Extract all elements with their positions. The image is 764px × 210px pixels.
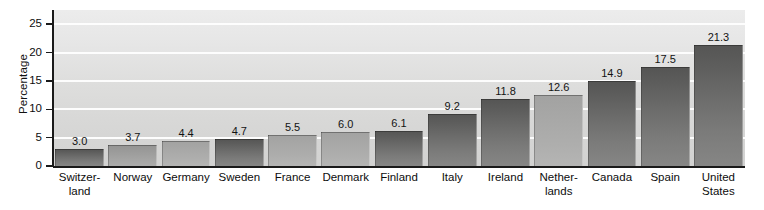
category-label: Ireland <box>475 171 536 185</box>
bar-edge-t <box>694 45 743 46</box>
bar-edge-l <box>215 139 216 166</box>
bar-edge-t <box>55 149 104 150</box>
bar-edge-l <box>55 149 56 166</box>
bar-edge-r <box>156 145 157 166</box>
bar-edge-t <box>321 132 370 133</box>
category-label-line: Ireland <box>475 171 536 185</box>
bar-edge-t <box>268 135 317 136</box>
bar-slot <box>321 10 370 166</box>
bar-chart: Percentage 0510152025 3.03.74.44.75.56.0… <box>0 0 764 210</box>
bar-edge-r <box>582 95 583 166</box>
bar[interactable] <box>268 135 317 166</box>
category-label: Canada <box>581 171 642 185</box>
bar-edge-r <box>263 139 264 166</box>
bar-edge-r <box>742 45 743 166</box>
category-label: Switzer-land <box>49 171 110 198</box>
category-label: France <box>262 171 323 185</box>
bar-edge-r <box>529 99 530 166</box>
y-tick-label-15: 15 <box>16 74 42 86</box>
bar-slot <box>428 10 477 166</box>
x-axis-line <box>53 166 745 168</box>
bar-edge-l <box>268 135 269 166</box>
category-label-line: Italy <box>422 171 483 185</box>
bar[interactable] <box>162 141 211 166</box>
category-label-line: States <box>688 185 749 199</box>
bar-value-label: 6.1 <box>372 117 425 129</box>
bar-edge-r <box>369 132 370 166</box>
bar-edge-r <box>103 149 104 166</box>
bar-edge-l <box>481 99 482 166</box>
bar[interactable] <box>108 145 157 166</box>
bar[interactable] <box>641 67 690 166</box>
bar-value-label: 9.2 <box>426 100 479 112</box>
category-label: Norway <box>102 171 163 185</box>
bar-edge-l <box>534 95 535 166</box>
bar[interactable] <box>481 99 530 166</box>
bar-edge-l <box>321 132 322 166</box>
bar[interactable] <box>55 149 104 166</box>
bar-value-label: 17.5 <box>639 53 692 65</box>
category-label-line: Switzer- <box>49 171 110 185</box>
bar-edge-l <box>162 141 163 166</box>
bar[interactable] <box>321 132 370 166</box>
bar-slot <box>162 10 211 166</box>
bar-edge-t <box>428 114 477 115</box>
bar-value-label: 6.0 <box>319 118 372 130</box>
category-label-line: Sweden <box>209 171 270 185</box>
y-tick-label-5: 5 <box>16 131 42 143</box>
bar-edge-l <box>108 145 109 166</box>
y-tick-label-10: 10 <box>16 102 42 114</box>
y-tick-label-20: 20 <box>16 46 42 58</box>
bar-edge-l <box>641 67 642 166</box>
bar-edge-r <box>422 131 423 166</box>
category-label-line: Norway <box>102 171 163 185</box>
bar-value-label: 4.7 <box>213 125 266 137</box>
y-tick-label-0: 0 <box>16 159 42 171</box>
category-label: Nether-lands <box>528 171 589 198</box>
y-axis-line <box>52 10 54 167</box>
bar-edge-t <box>162 141 211 142</box>
category-label: Italy <box>422 171 483 185</box>
bar-slot <box>215 10 264 166</box>
bar[interactable] <box>375 131 424 166</box>
bar[interactable] <box>534 95 583 166</box>
category-label-line: lands <box>528 185 589 199</box>
y-tick-label-25: 25 <box>16 17 42 29</box>
bar-value-label: 3.0 <box>53 135 106 147</box>
bar-edge-t <box>215 139 264 140</box>
bar-edge-r <box>316 135 317 166</box>
bar-edge-t <box>588 81 637 82</box>
bar-edge-l <box>428 114 429 166</box>
bar-value-label: 14.9 <box>585 67 638 79</box>
category-label-line: land <box>49 185 110 199</box>
category-label-line: Denmark <box>315 171 376 185</box>
x-axis-category-labels: Switzer-landNorwayGermanySwedenFranceDen… <box>53 171 745 209</box>
bar-edge-r <box>476 114 477 166</box>
bar-value-label: 21.3 <box>692 31 745 43</box>
bar-edge-l <box>694 45 695 166</box>
bar-edge-t <box>534 95 583 96</box>
category-label-line: Nether- <box>528 171 589 185</box>
bar[interactable] <box>694 45 743 166</box>
category-label-line: Finland <box>368 171 429 185</box>
bar-edge-r <box>689 67 690 166</box>
bar-value-label: 5.5 <box>266 121 319 133</box>
bar-edge-l <box>588 81 589 166</box>
bar-edge-t <box>108 145 157 146</box>
category-label-line: France <box>262 171 323 185</box>
bar[interactable] <box>588 81 637 166</box>
category-label: Sweden <box>209 171 270 185</box>
bar-edge-r <box>635 81 636 166</box>
bar-slot <box>375 10 424 166</box>
bar-edge-t <box>481 99 530 100</box>
bar-slot <box>268 10 317 166</box>
bar-edge-l <box>375 131 376 166</box>
bar[interactable] <box>428 114 477 166</box>
bar-slot <box>641 10 690 166</box>
bar-edge-t <box>375 131 424 132</box>
category-label: Spain <box>635 171 696 185</box>
bar-slot <box>588 10 637 166</box>
category-label-line: Canada <box>581 171 642 185</box>
bar[interactable] <box>215 139 264 166</box>
bar-value-label: 3.7 <box>106 131 159 143</box>
